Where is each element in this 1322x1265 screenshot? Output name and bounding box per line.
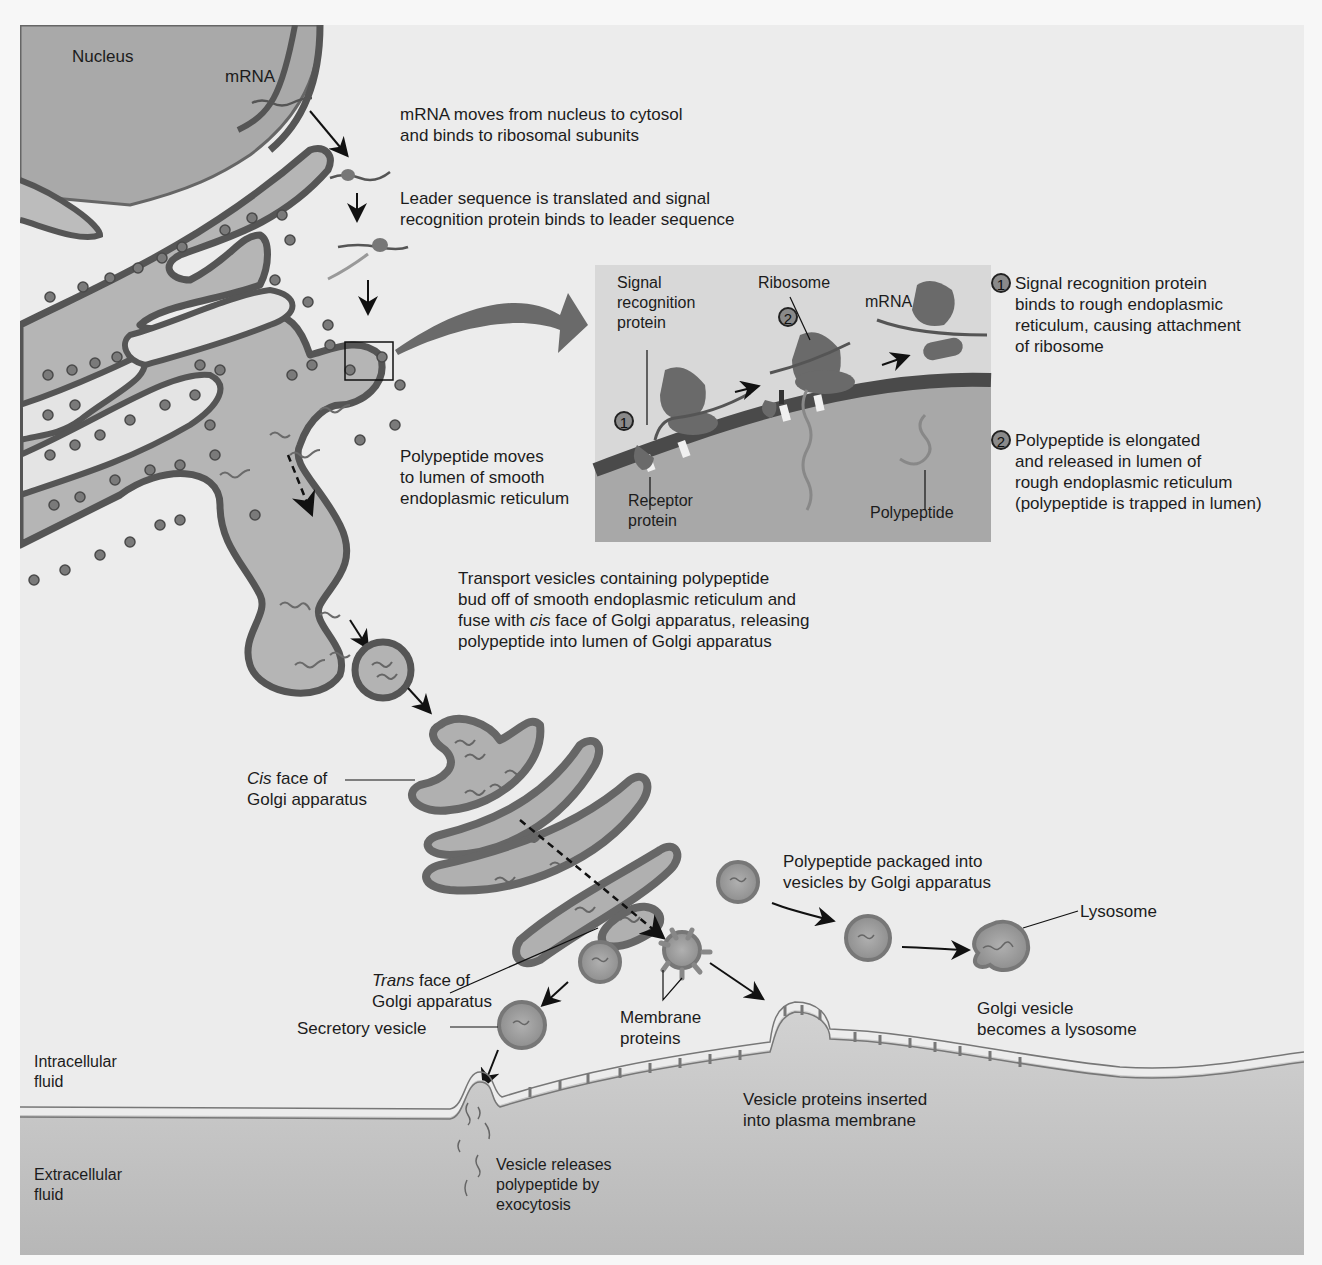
label-mrna: mRNA [225,66,275,87]
label-step-leader-sequence: Leader sequence is translated and signal… [400,188,735,230]
diagram-canvas: Nucleus mRNA mRNA moves from nucleus to … [20,25,1304,1255]
lysosome-shape [974,911,1078,970]
zoom-callout-arrow [395,293,588,355]
secretory-vesicle [499,1002,545,1048]
inset-marker-2: 2 [778,307,798,327]
inset-label-receptor-protein: Receptor protein [628,491,693,531]
label-extracellular-fluid: Extracellular fluid [34,1165,122,1205]
membrane-vesicle [661,930,710,1000]
label-polypeptide-packaged: Polypeptide packaged into vesicles by Go… [783,851,991,893]
label-step-mrna-moves: mRNA moves from nucleus to cytosol and b… [400,104,682,146]
inset-label-mrna: mRNA [865,292,912,312]
label-membrane-proteins: Membrane proteins [620,1007,701,1049]
label-nucleus: Nucleus [72,46,133,67]
label-exocytosis: Vesicle releases polypeptide by exocytos… [496,1155,612,1215]
inset-marker-1: 1 [614,411,634,431]
transport-vesicle [350,620,428,710]
golgi-apparatus [412,719,677,963]
label-trans-face: Trans face of Golgi apparatus [372,970,492,1012]
label-transport-vesicles: Transport vesicles containing polypeptid… [458,568,810,652]
inset-step-2: 2 Polypeptide is elongated and released … [1015,430,1262,514]
label-vesicle-proteins-inserted: Vesicle proteins inserted into plasma me… [743,1089,927,1131]
label-secretory-vesicle: Secretory vesicle [297,1018,426,1039]
inset-step-1: 1 Signal recognition protein binds to ro… [1015,273,1241,357]
label-lysosome: Lysosome [1080,901,1157,922]
inset-label-polypeptide: Polypeptide [870,503,954,523]
step-number-2: 2 [991,430,1011,450]
label-polypeptide-moves: Polypeptide moves to lumen of smooth end… [400,446,569,509]
step-number-1: 1 [991,273,1011,293]
label-cis-face: Cis face of Golgi apparatus [247,768,367,810]
label-golgi-vesicle-lysosome: Golgi vesicle becomes a lysosome [977,998,1137,1040]
label-intracellular-fluid: Intracellular fluid [34,1052,117,1092]
inset-label-signal-recognition-protein: Signal recognition protein [617,273,695,333]
inset-label-ribosome: Ribosome [758,273,830,293]
